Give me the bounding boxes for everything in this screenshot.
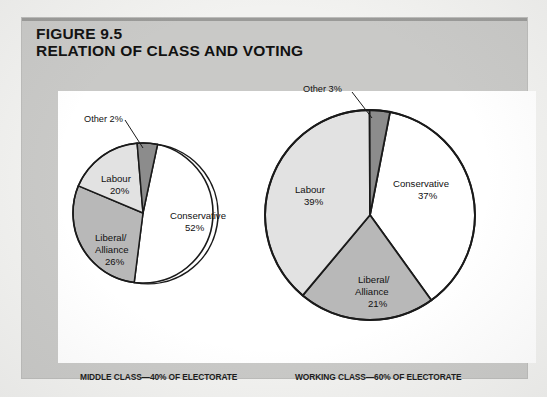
figure-top-rule bbox=[22, 18, 527, 21]
chart-panel bbox=[58, 91, 536, 363]
caption-working-class: WORKING CLASS—60% OF ELECTORATE bbox=[295, 372, 461, 382]
page-title: RELATION OF CLASS AND VOTING bbox=[36, 43, 456, 59]
caption-middle-class: MIDDLE CLASS—40% OF ELECTORATE bbox=[80, 372, 237, 382]
figure-page: FIGURE 9.5 RELATION OF CLASS AND VOTING … bbox=[0, 0, 547, 397]
figure-number: FIGURE 9.5 bbox=[36, 26, 456, 42]
figure-title-block: FIGURE 9.5 RELATION OF CLASS AND VOTING bbox=[36, 26, 456, 60]
figure-box: FIGURE 9.5 RELATION OF CLASS AND VOTING … bbox=[22, 18, 527, 378]
caption-strip: MIDDLE CLASS—40% OF ELECTORATE WORKING C… bbox=[58, 367, 536, 387]
